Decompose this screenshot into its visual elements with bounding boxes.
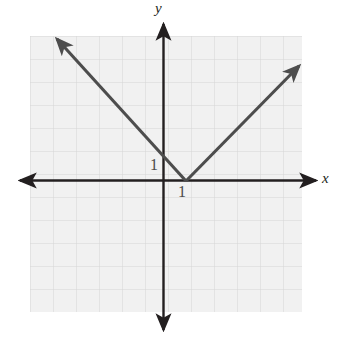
y-unit-tick-label: 1 [150, 157, 158, 173]
y-axis-label: y [155, 1, 162, 16]
x-axis-label: x [322, 171, 329, 186]
graph-figure: y x 1 1 [0, 0, 340, 340]
x-unit-tick-label: 1 [178, 184, 186, 200]
grid-background [30, 36, 302, 312]
coordinate-plane-svg [0, 0, 340, 340]
